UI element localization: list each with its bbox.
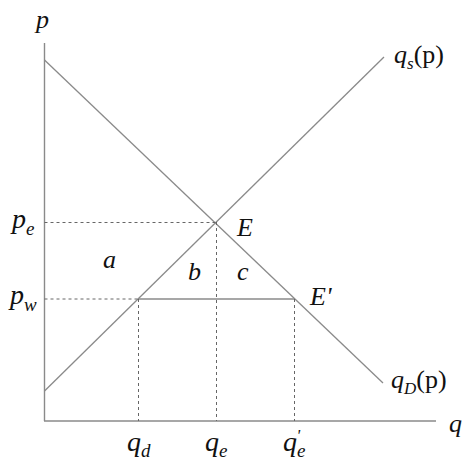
supply-demand-diagram: p q qs(p) qD(p) pe pw qd qe qe' E E' a b…: [0, 0, 471, 470]
region-a-label: a: [103, 245, 116, 274]
supply-label: qs(p): [394, 40, 444, 73]
qe-prime-label: qe': [283, 426, 305, 461]
qd-label: qd: [127, 426, 151, 461]
point-E-prime-label: E': [309, 282, 332, 311]
y-axis-label: p: [34, 5, 49, 34]
point-E-label: E: [236, 213, 253, 242]
demand-label: qD(p): [391, 365, 447, 398]
supply-curve: [45, 57, 385, 391]
pe-label: pe: [10, 203, 34, 239]
region-b-label: b: [188, 257, 201, 286]
x-axis-label: q: [449, 409, 462, 438]
pw-label: pw: [8, 279, 37, 315]
region-c-label: c: [237, 257, 249, 286]
qe-label: qe: [205, 426, 227, 461]
